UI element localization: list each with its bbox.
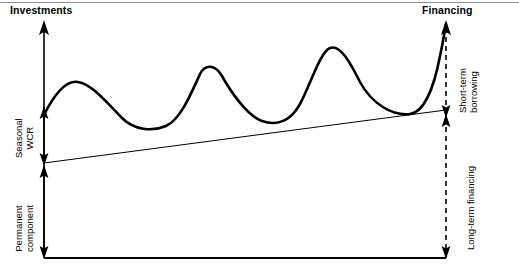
permanent-component-label-line2: component bbox=[24, 205, 35, 252]
permanent-component-label-line1: Permanent bbox=[13, 205, 24, 252]
long-term-financing-label: Long-term financing bbox=[465, 166, 476, 250]
short-term-borrowing-label-line2: borrowing bbox=[468, 68, 479, 113]
short-term-borrowing-label-line1: Short-term bbox=[457, 68, 468, 113]
seasonal-wcr-label-line1: Seasonal bbox=[13, 118, 24, 158]
permanent-component-trend-line bbox=[44, 110, 446, 163]
figure-canvas: Investments Financing Seasonal WCR Perma… bbox=[0, 0, 519, 277]
long-term-financing-arrow-up-icon bbox=[442, 114, 451, 127]
seasonal-wcr-label-line2: WCR bbox=[24, 118, 35, 158]
permanent-component-label: Permanent component bbox=[13, 205, 35, 252]
seasonal-wcr-label: Seasonal WCR bbox=[13, 118, 35, 158]
financing-axis-label: Financing bbox=[422, 4, 472, 16]
long-term-financing-label-line1: Long-term financing bbox=[465, 166, 476, 250]
diagram-svg bbox=[0, 0, 519, 277]
short-term-borrowing-label: Short-term borrowing bbox=[457, 68, 479, 113]
seasonal-wave-curve bbox=[44, 24, 446, 129]
investments-axis-label: Investments bbox=[10, 4, 72, 16]
